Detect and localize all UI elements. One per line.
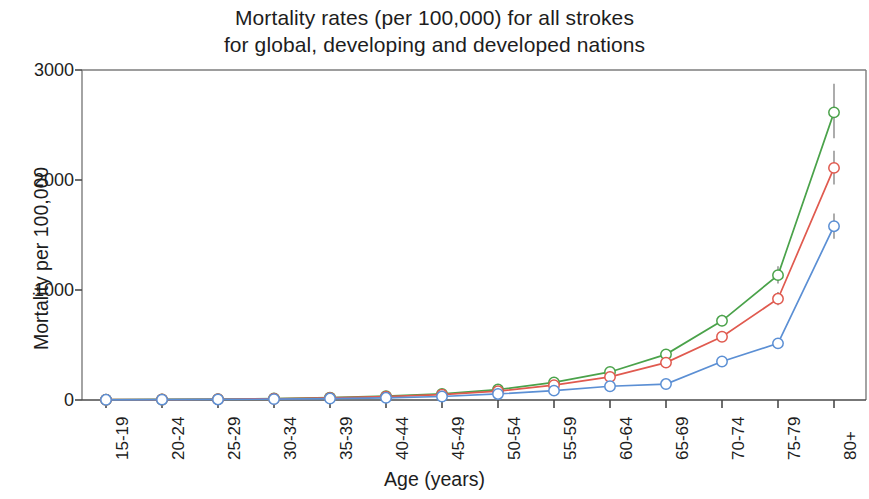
data-point-marker — [101, 395, 111, 405]
x-tick-label: 15-19 — [113, 417, 133, 460]
y-axis-label: Mortality per 100,000 — [30, 167, 53, 350]
x-tick-label: 40-44 — [393, 417, 413, 460]
x-tick-label: 60-64 — [617, 417, 637, 460]
x-tick-label: 75-79 — [785, 417, 805, 460]
data-point-marker — [717, 332, 727, 342]
x-tick-label: 25-29 — [225, 417, 245, 460]
data-point-marker — [773, 338, 783, 348]
data-point-marker — [381, 393, 391, 403]
x-tick-label: 55-59 — [561, 417, 581, 460]
x-tick-label: 70-74 — [729, 417, 749, 460]
data-point-marker — [829, 107, 839, 117]
y-tick-label: 0 — [64, 390, 74, 411]
y-tick-label: 1000 — [34, 280, 74, 301]
x-tick-label: 35-39 — [337, 417, 357, 460]
x-axis-label: Age (years) — [0, 468, 869, 491]
error-bar-group-global — [330, 151, 834, 398]
x-tick-label: 20-24 — [169, 417, 189, 460]
series-markers-global — [101, 163, 839, 405]
data-point-marker — [717, 316, 727, 326]
chart-title-line-2: for global, developing and developed nat… — [0, 31, 869, 58]
data-point-marker — [269, 394, 279, 404]
data-point-marker — [773, 270, 783, 280]
data-point-marker — [829, 221, 839, 231]
data-point-marker — [213, 394, 223, 404]
series-markers-developed — [101, 221, 839, 405]
x-tick-label: 30-34 — [281, 417, 301, 460]
x-tick-label: 80+ — [841, 431, 861, 460]
chart-figure: Mortality rates (per 100,000) for all st… — [0, 0, 869, 499]
x-tick-label: 50-54 — [505, 417, 525, 460]
data-point-marker — [829, 163, 839, 173]
x-tick-label: 45-49 — [449, 417, 469, 460]
x-tick-label: 65-69 — [673, 417, 693, 460]
data-point-marker — [437, 391, 447, 401]
data-point-marker — [717, 356, 727, 366]
y-tick-label: 2000 — [34, 170, 74, 191]
chart-title-line-1: Mortality rates (per 100,000) for all st… — [235, 6, 634, 29]
data-point-marker — [773, 294, 783, 304]
data-point-marker — [157, 394, 167, 404]
data-point-marker — [605, 381, 615, 391]
data-point-marker — [325, 393, 335, 403]
data-point-marker — [661, 357, 671, 367]
error-bar-group-developing — [330, 84, 834, 398]
data-point-marker — [661, 379, 671, 389]
data-point-marker — [549, 385, 559, 395]
y-tick-label: 3000 — [34, 60, 74, 81]
chart-title: Mortality rates (per 100,000) for all st… — [0, 4, 869, 58]
data-point-marker — [493, 389, 503, 399]
series-line-developed — [106, 226, 834, 400]
